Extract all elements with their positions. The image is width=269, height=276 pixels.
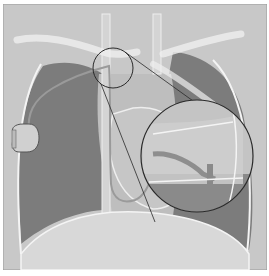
vena-cava — [102, 14, 110, 214]
pacemaker-device — [12, 124, 39, 152]
chest-illustration — [3, 4, 267, 270]
illustration-frame — [3, 4, 267, 270]
